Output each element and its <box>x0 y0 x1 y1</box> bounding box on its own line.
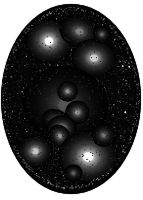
grain-speckle-layer <box>1 4 141 194</box>
astronomical-plate <box>0 0 143 200</box>
sky-aperture-ellipse <box>1 4 141 194</box>
